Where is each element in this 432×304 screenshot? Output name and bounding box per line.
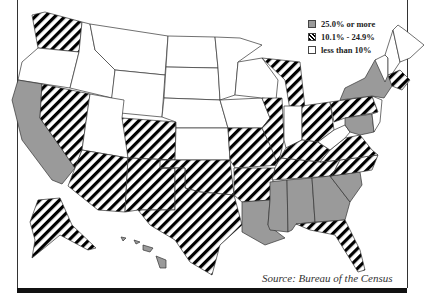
state-hawaii-island xyxy=(156,256,166,268)
state-colorado xyxy=(122,118,176,160)
state-north-dakota xyxy=(166,36,218,68)
state-arkansas xyxy=(234,168,275,202)
state-mississippi xyxy=(268,180,288,232)
legend-label: 25.0% or more xyxy=(321,19,375,29)
state-alaska xyxy=(30,198,96,258)
source-caption: Source: Bureau of the Census xyxy=(262,272,393,284)
legend-item-white: less than 10% xyxy=(308,43,375,56)
state-hawaii-oahu xyxy=(134,240,140,244)
legend-label: less than 10% xyxy=(321,45,372,55)
state-kansas xyxy=(175,128,230,160)
state-washington xyxy=(32,12,82,52)
white-swatch-icon xyxy=(308,46,316,54)
state-hawaii-maui xyxy=(143,245,153,252)
state-hawaii-kauai xyxy=(121,237,126,241)
state-iowa xyxy=(220,98,270,128)
legend-item-gray: 25.0% or more xyxy=(308,17,375,30)
state-florida xyxy=(296,220,365,272)
state-south-dakota xyxy=(164,67,220,100)
gray-swatch-icon xyxy=(308,20,316,28)
legend-label: 10.1% - 24.9% xyxy=(321,32,375,42)
legend-item-hatched: 10.1% - 24.9% xyxy=(308,30,375,43)
legend: 25.0% or more 10.1% - 24.9% less than 10… xyxy=(308,17,375,56)
hatched-swatch-icon xyxy=(308,33,316,41)
